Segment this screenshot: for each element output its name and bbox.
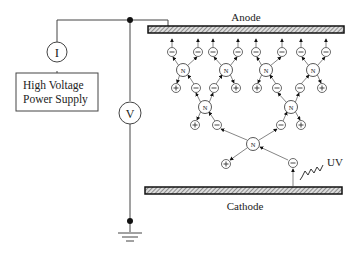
svg-text:N: N [264, 67, 269, 74]
electron [234, 48, 243, 57]
cathode-plate: Cathode [145, 187, 342, 212]
electron [296, 84, 305, 93]
svg-text:N: N [311, 67, 316, 74]
motion-arrows [172, 39, 326, 186]
positive-ion [232, 84, 241, 93]
electron [278, 48, 287, 57]
electron [209, 48, 218, 57]
townsend-avalanche-diagram: I High Voltage Power Supply V Anode Cath… [0, 0, 359, 256]
neutral-molecule: N [247, 138, 260, 151]
positive-ion [191, 121, 200, 130]
svg-text:N: N [224, 67, 229, 74]
svg-text:N: N [181, 67, 186, 74]
neutral-molecules: N N N N N N N [177, 64, 320, 151]
svg-text:N: N [251, 141, 256, 148]
high-voltage-power-supply: High Voltage Power Supply [16, 73, 98, 111]
electron [322, 48, 331, 57]
ammeter-label: I [55, 45, 59, 60]
electron [194, 48, 203, 57]
positive-ion [253, 84, 262, 93]
positive-ion [297, 121, 306, 130]
svg-text:N: N [289, 104, 294, 111]
electron [277, 121, 286, 130]
svg-text:N: N [203, 104, 208, 111]
neutral-molecule: N [260, 64, 273, 77]
positive-ion [172, 84, 181, 93]
electron [213, 121, 222, 130]
positive-ions [172, 84, 327, 169]
power-supply-label-line1: High Voltage [23, 79, 84, 92]
neutral-molecule: N [220, 64, 233, 77]
voltmeter: V [119, 102, 141, 124]
electron [192, 84, 201, 93]
electron [210, 84, 219, 93]
anode-plate: Anode [148, 11, 344, 33]
cathode-label: Cathode [227, 200, 264, 212]
positive-ion [318, 84, 327, 93]
positive-ion [222, 160, 231, 169]
uv-label: UV [327, 156, 343, 168]
electron [168, 48, 177, 57]
anode-label: Anode [231, 11, 260, 23]
electron [297, 48, 306, 57]
circuit-wires [57, 20, 168, 232]
electron [273, 84, 282, 93]
uv-photon: UV [300, 156, 343, 180]
junction-dot-top [127, 17, 133, 23]
power-supply-label-line2: Power Supply [23, 93, 88, 106]
photoelectron [289, 159, 298, 168]
voltmeter-label: V [126, 107, 135, 121]
electron [252, 48, 261, 57]
neutral-molecule: N [307, 64, 320, 77]
ground-icon [118, 233, 142, 241]
neutral-molecule: N [199, 101, 212, 114]
ammeter: I [47, 42, 67, 62]
neutral-molecule: N [285, 101, 298, 114]
neutral-molecule: N [177, 64, 190, 77]
junction-dot-bottom [127, 218, 133, 224]
